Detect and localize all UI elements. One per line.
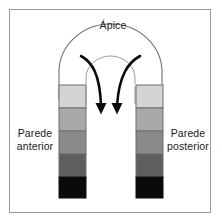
posterior-segment-4	[136, 154, 163, 177]
anterior-segment-5	[59, 177, 86, 198]
posterior-segment-2	[136, 108, 163, 131]
arrowhead-left	[96, 103, 107, 115]
anterior-segment-2	[59, 108, 86, 131]
anterior-segment-4	[59, 154, 86, 177]
posterior-segment-1	[136, 85, 163, 108]
apex-wall-diagram	[0, 0, 222, 224]
apex-label: Ápice	[73, 19, 153, 32]
anterior-segment-3	[59, 131, 86, 154]
posterior-segment-3	[136, 131, 163, 154]
inner-arch-outline	[86, 56, 135, 104]
anterior-wall-column	[59, 85, 86, 198]
anterior-wall-label: Parede anterior	[10, 127, 60, 152]
posterior-segment-5	[136, 177, 163, 198]
figure-container: Ápice Parede anterior Parede posterior	[0, 0, 222, 224]
anterior-segment-1	[59, 85, 86, 108]
posterior-wall-column	[136, 85, 163, 198]
posterior-wall-label: Parede posterior	[161, 127, 215, 152]
arrowhead-right	[112, 103, 123, 115]
